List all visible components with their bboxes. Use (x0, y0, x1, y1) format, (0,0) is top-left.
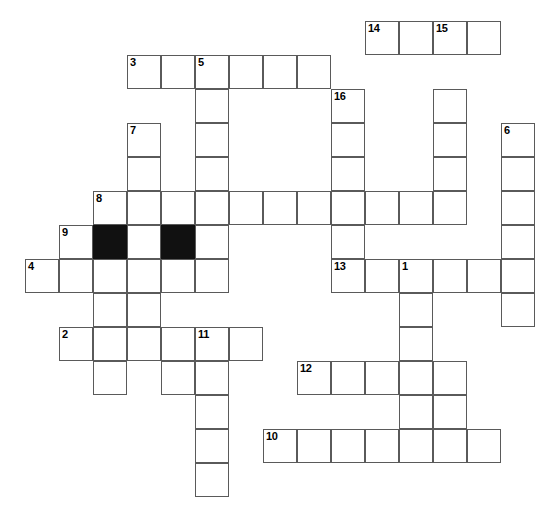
crossword-cell[interactable] (161, 259, 195, 293)
crossword-cell[interactable] (93, 259, 127, 293)
clue-number-10: 10 (266, 430, 278, 442)
crossword-cell[interactable] (365, 191, 399, 225)
crossword-cell[interactable] (161, 361, 195, 395)
clue-number-15: 15 (436, 22, 448, 34)
crossword-cell[interactable] (399, 429, 433, 463)
crossword-block-cell (161, 225, 195, 259)
crossword-cell-numbered[interactable]: 2 (59, 327, 93, 361)
crossword-cell[interactable] (433, 429, 467, 463)
crossword-cell[interactable] (229, 55, 263, 89)
crossword-cell-numbered[interactable]: 9 (59, 225, 93, 259)
crossword-cell[interactable] (365, 259, 399, 293)
crossword-cell[interactable] (195, 259, 229, 293)
crossword-cell[interactable] (331, 429, 365, 463)
crossword-cell[interactable] (195, 463, 229, 497)
clue-number-5: 5 (198, 56, 204, 68)
crossword-cell[interactable] (331, 191, 365, 225)
crossword-cell[interactable] (467, 259, 501, 293)
crossword-cell[interactable] (195, 225, 229, 259)
crossword-cell-numbered[interactable]: 3 (127, 55, 161, 89)
crossword-cell[interactable] (229, 191, 263, 225)
crossword-cell-numbered[interactable]: 11 (195, 327, 229, 361)
clue-number-3: 3 (130, 56, 136, 68)
crossword-cell[interactable] (331, 361, 365, 395)
crossword-cell[interactable] (195, 89, 229, 123)
crossword-cell[interactable] (93, 327, 127, 361)
crossword-cell[interactable] (195, 361, 229, 395)
crossword-cell[interactable] (127, 327, 161, 361)
crossword-cell[interactable] (433, 191, 467, 225)
crossword-cell-numbered[interactable]: 6 (501, 123, 535, 157)
crossword-cell[interactable] (297, 429, 331, 463)
crossword-cell[interactable] (433, 259, 467, 293)
crossword-cell-numbered[interactable]: 14 (365, 21, 399, 55)
crossword-block-cell (93, 225, 127, 259)
crossword-cell[interactable] (229, 327, 263, 361)
crossword-cell-numbered[interactable]: 5 (195, 55, 229, 89)
crossword-cell[interactable] (161, 327, 195, 361)
crossword-cell[interactable] (501, 293, 535, 327)
clue-number-8: 8 (96, 192, 102, 204)
crossword-cell[interactable] (195, 191, 229, 225)
crossword-cell[interactable] (195, 395, 229, 429)
crossword-cell[interactable] (501, 225, 535, 259)
clue-number-7: 7 (130, 124, 136, 136)
crossword-cell-numbered[interactable]: 12 (297, 361, 331, 395)
clue-number-4: 4 (28, 260, 34, 272)
crossword-cell[interactable] (195, 123, 229, 157)
clue-number-6: 6 (504, 124, 510, 136)
crossword-cell[interactable] (59, 259, 93, 293)
crossword-cell[interactable] (161, 191, 195, 225)
clue-number-14: 14 (368, 22, 380, 34)
crossword-cell[interactable] (127, 259, 161, 293)
crossword-cell[interactable] (433, 395, 467, 429)
crossword-cell[interactable] (433, 157, 467, 191)
crossword-cell[interactable] (93, 361, 127, 395)
crossword-cell[interactable] (331, 225, 365, 259)
crossword-grid[interactable]: 14153516768941312111210 (0, 0, 555, 505)
crossword-cell[interactable] (263, 191, 297, 225)
crossword-cell[interactable] (127, 293, 161, 327)
crossword-cell[interactable] (127, 191, 161, 225)
crossword-cell[interactable] (127, 225, 161, 259)
clue-number-13: 13 (334, 260, 346, 272)
crossword-cell[interactable] (501, 157, 535, 191)
crossword-cell[interactable] (399, 191, 433, 225)
crossword-cell-numbered[interactable]: 7 (127, 123, 161, 157)
crossword-cell[interactable] (399, 293, 433, 327)
crossword-cell[interactable] (399, 395, 433, 429)
crossword-cell-numbered[interactable]: 16 (331, 89, 365, 123)
crossword-cell[interactable] (399, 361, 433, 395)
crossword-cell[interactable] (399, 21, 433, 55)
crossword-cell[interactable] (433, 361, 467, 395)
crossword-cell[interactable] (93, 293, 127, 327)
crossword-cell[interactable] (195, 157, 229, 191)
clue-number-9: 9 (62, 226, 68, 238)
clue-number-16: 16 (334, 90, 346, 102)
clue-number-11: 11 (198, 328, 209, 340)
crossword-cell[interactable] (501, 259, 535, 293)
crossword-cell[interactable] (467, 429, 501, 463)
crossword-cell[interactable] (297, 55, 331, 89)
crossword-cell[interactable] (195, 429, 229, 463)
crossword-cell[interactable] (501, 191, 535, 225)
crossword-cell[interactable] (399, 327, 433, 361)
crossword-cell[interactable] (331, 157, 365, 191)
crossword-cell[interactable] (263, 55, 297, 89)
crossword-cell-numbered[interactable]: 13 (331, 259, 365, 293)
clue-number-12: 12 (300, 362, 312, 374)
crossword-cell[interactable] (161, 55, 195, 89)
crossword-cell[interactable] (297, 191, 331, 225)
crossword-cell[interactable] (433, 89, 467, 123)
crossword-cell-numbered[interactable]: 10 (263, 429, 297, 463)
crossword-cell-numbered[interactable]: 15 (433, 21, 467, 55)
crossword-cell-numbered[interactable]: 1 (399, 259, 433, 293)
crossword-cell[interactable] (331, 123, 365, 157)
crossword-cell-numbered[interactable]: 4 (25, 259, 59, 293)
crossword-cell-numbered[interactable]: 8 (93, 191, 127, 225)
crossword-cell[interactable] (433, 123, 467, 157)
crossword-cell[interactable] (365, 429, 399, 463)
crossword-cell[interactable] (127, 157, 161, 191)
crossword-cell[interactable] (365, 361, 399, 395)
crossword-cell[interactable] (467, 21, 501, 55)
